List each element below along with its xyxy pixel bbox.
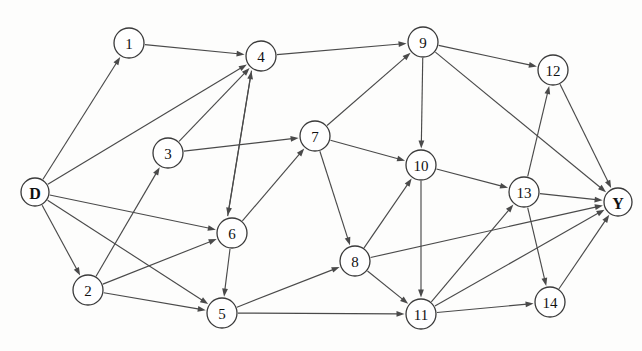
graph-node-9[interactable]: 9 <box>408 27 438 57</box>
graph-node-12[interactable]: 12 <box>538 55 568 85</box>
graph-node-4[interactable]: 4 <box>246 41 276 71</box>
arrowhead-icon-1-to-4 <box>236 51 244 57</box>
arrowhead-icon-6-to-5 <box>222 288 228 296</box>
node-label-Y: Y <box>612 195 624 212</box>
graph-edge-11-to-14 <box>437 304 527 312</box>
arrowhead-icon-13-to-14 <box>542 277 548 285</box>
arrowhead-icon-7-to-8 <box>345 237 351 246</box>
graph-edge-6-to-5 <box>225 249 230 290</box>
graph-node-13[interactable]: 13 <box>509 177 539 207</box>
nodes-layer: D1234567891011121314Y <box>21 27 632 329</box>
graph-edge-9-to-12 <box>439 45 531 65</box>
graph-edge-6-to-4 <box>228 78 251 217</box>
graph-node-7[interactable]: 7 <box>300 121 330 151</box>
arrowhead-icon-2-to-6 <box>208 239 217 245</box>
node-label-9: 9 <box>419 35 427 51</box>
graph-edge-13-to-14 <box>528 208 545 280</box>
graph-edge-2-to-6 <box>103 241 211 284</box>
arrowhead-icon-2-to-3 <box>153 167 160 175</box>
graph-edge-13-to-12 <box>528 92 548 176</box>
graph-edge-8-to-10 <box>364 184 408 248</box>
graph-edge-2-to-3 <box>96 173 156 276</box>
graph-node-5[interactable]: 5 <box>207 298 237 328</box>
graph-edge-5-to-8 <box>237 269 334 307</box>
graph-node-D[interactable]: D <box>21 178 49 206</box>
graph-edge-1-to-4 <box>145 45 238 54</box>
node-label-12: 12 <box>546 63 561 79</box>
arrowhead-icon-12-to-Y <box>605 180 611 188</box>
arrowhead-icon-D-to-2 <box>74 267 80 275</box>
arrowhead-icon-7-to-10 <box>397 156 405 162</box>
graph-node-3[interactable]: 3 <box>153 138 183 168</box>
node-label-10: 10 <box>414 158 429 174</box>
graph-edge-11-to-13 <box>431 210 509 302</box>
node-label-13: 13 <box>517 185 532 201</box>
graph-edge-4-to-9 <box>277 44 400 55</box>
node-label-5: 5 <box>218 306 226 322</box>
graph-node-2[interactable]: 2 <box>73 275 103 305</box>
graph-node-10[interactable]: 10 <box>406 150 436 180</box>
arrowhead-icon-6-to-4 <box>247 71 253 79</box>
graph-node-Y[interactable]: Y <box>604 188 632 216</box>
graph-edge-D-to-6 <box>50 195 210 228</box>
graph-canvas: D1234567891011121314Y <box>0 0 642 351</box>
graph-edge-D-to-1 <box>43 62 117 179</box>
node-label-14: 14 <box>543 295 559 311</box>
graph-edge-14-to-Y <box>559 220 606 289</box>
arrowhead-icon-9-to-10 <box>419 140 425 148</box>
node-label-D: D <box>29 185 41 202</box>
arrowhead-icon-11-to-Y <box>596 210 604 216</box>
arrowhead-icon-13-to-12 <box>545 86 551 94</box>
graph-edge-D-to-2 <box>42 205 77 270</box>
arrowhead-icon-3-to-7 <box>290 136 298 142</box>
arrowhead-icon-2-to-5 <box>197 306 205 312</box>
arrowhead-icon-10-to-11 <box>418 290 424 298</box>
graph-edge-5-to-11 <box>238 313 398 314</box>
node-label-3: 3 <box>164 146 172 162</box>
node-label-7: 7 <box>311 129 319 145</box>
graph-node-14[interactable]: 14 <box>535 287 565 317</box>
graph-edge-10-to-13 <box>436 169 501 186</box>
graph-edge-2-to-5 <box>104 293 200 309</box>
graph-edge-7-to-9 <box>327 57 406 125</box>
graph-node-11[interactable]: 11 <box>406 299 436 329</box>
graph-edge-9-to-Y <box>435 52 601 188</box>
arrowhead-icon-13-to-Y <box>594 197 602 203</box>
arrowhead-icon-14-to-Y <box>602 215 609 223</box>
graph-edge-9-to-10 <box>421 58 422 142</box>
graph-edge-8-to-11 <box>367 271 403 300</box>
directed-graph-figure: D1234567891011121314Y <box>0 0 642 351</box>
arrowhead-icon-11-to-14 <box>525 301 533 307</box>
node-label-8: 8 <box>351 254 359 270</box>
node-label-6: 6 <box>228 226 236 242</box>
arrowhead-icon-8-to-Y <box>594 204 602 210</box>
arrowhead-icon-8-to-10 <box>405 179 412 187</box>
graph-edge-6-to-7 <box>242 153 300 220</box>
arrowhead-icon-9-to-12 <box>528 62 536 68</box>
node-label-4: 4 <box>257 49 265 65</box>
graph-edge-7-to-10 <box>330 140 398 159</box>
arrowhead-icon-D-to-5 <box>200 297 208 304</box>
graph-node-8[interactable]: 8 <box>340 246 370 276</box>
arrowhead-icon-D-to-6 <box>207 225 215 231</box>
graph-edge-7-to-8 <box>320 151 348 239</box>
graph-node-1[interactable]: 1 <box>114 28 144 58</box>
graph-edge-8-to-Y <box>371 207 597 258</box>
node-label-11: 11 <box>414 307 428 323</box>
arrowhead-icon-5-to-11 <box>396 311 404 317</box>
graph-edge-3-to-4 <box>179 73 245 142</box>
arrowhead-icon-D-to-1 <box>113 57 120 65</box>
node-label-2: 2 <box>84 283 92 299</box>
graph-edge-D-to-5 <box>48 200 203 300</box>
graph-edge-13-to-Y <box>540 194 596 200</box>
graph-node-6[interactable]: 6 <box>217 218 247 248</box>
graph-edge-3-to-7 <box>184 139 292 152</box>
node-label-1: 1 <box>125 36 133 52</box>
arrowhead-icon-10-to-13 <box>500 183 508 189</box>
graph-edge-11-to-Y <box>435 213 599 306</box>
arrowhead-icon-4-to-9 <box>398 41 406 47</box>
arrowhead-icon-5-to-8 <box>331 267 340 273</box>
graph-edge-12-to-Y <box>560 84 608 182</box>
